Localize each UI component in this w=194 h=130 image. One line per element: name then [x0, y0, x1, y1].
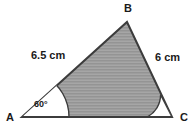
side-length-label-bc: 6 cm — [155, 52, 180, 63]
vertex-label-c: C — [180, 112, 188, 123]
vertex-label-a: A — [6, 112, 14, 123]
angle-measure-label-a: 60° — [34, 100, 48, 109]
vertex-label-b: B — [124, 3, 132, 14]
geometry-figure: A B C 6.5 cm 6 cm 60° — [0, 0, 194, 130]
triangle-diagram — [0, 0, 194, 130]
side-length-label-ab: 6.5 cm — [31, 50, 65, 61]
